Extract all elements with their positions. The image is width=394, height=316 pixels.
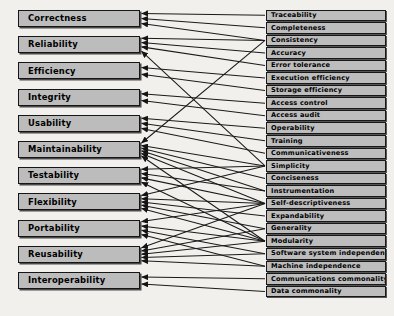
- criterion-label: Access audit: [267, 112, 320, 119]
- factor-box-maintainability[interactable]: Maintainability: [18, 141, 140, 158]
- criterion-box-machine-independence[interactable]: Machine independence: [266, 261, 386, 273]
- criterion-label: Communications commonality: [267, 276, 386, 283]
- criterion-box-accuracy[interactable]: Accuracy: [266, 47, 386, 59]
- criterion-box-expandability[interactable]: Expandability: [266, 210, 386, 222]
- criterion-label: Communicativeness: [267, 150, 349, 157]
- edge-error-tolerance-to-reliability: [142, 47, 266, 66]
- criterion-label: Access control: [267, 100, 328, 107]
- criterion-box-simplicity[interactable]: Simplicity: [266, 160, 386, 172]
- criterion-box-modularity[interactable]: Modularity: [266, 235, 386, 247]
- factor-box-flexibility[interactable]: Flexibility: [18, 193, 140, 210]
- criterion-box-conciseness[interactable]: Conciseness: [266, 173, 386, 185]
- factor-label: Reliability: [19, 40, 78, 48]
- factor-label: Interoperability: [19, 276, 105, 284]
- edge-conciseness-to-maintainability: [142, 148, 266, 178]
- factor-label: Portability: [19, 224, 80, 232]
- criterion-box-access-audit[interactable]: Access audit: [266, 110, 386, 122]
- factor-label: Efficiency: [19, 67, 76, 75]
- criterion-box-execution-efficiency[interactable]: Execution efficiency: [266, 72, 386, 84]
- edge-access-control-to-integrity: [142, 94, 266, 103]
- criterion-label: Storage efficiency: [267, 87, 342, 94]
- factor-box-efficiency[interactable]: Efficiency: [18, 62, 140, 79]
- edge-software-system-independence-to-portability: [142, 230, 266, 253]
- criterion-label: Execution efficiency: [267, 75, 350, 82]
- factor-label: Testability: [19, 171, 79, 179]
- factor-box-correctness[interactable]: Correctness: [18, 10, 140, 27]
- criterion-box-instrumentation[interactable]: Instrumentation: [266, 185, 386, 197]
- criterion-label: Self-descriptiveness: [267, 200, 350, 207]
- criterion-box-storage-efficiency[interactable]: Storage efficiency: [266, 85, 386, 97]
- criterion-label: Machine independence: [267, 263, 361, 270]
- criterion-box-communicativeness[interactable]: Communicativeness: [266, 148, 386, 160]
- edge-self-descriptiveness-to-testability: [142, 178, 266, 204]
- criterion-label: Completeness: [267, 25, 326, 32]
- criterion-box-access-control[interactable]: Access control: [266, 97, 386, 109]
- edge-access-audit-to-integrity: [142, 101, 266, 116]
- edge-self-descriptiveness-to-flexibility: [142, 199, 266, 204]
- factor-label: Maintainability: [19, 145, 102, 153]
- factor-box-testability[interactable]: Testability: [18, 167, 140, 184]
- factor-label: Integrity: [19, 93, 71, 101]
- criterion-label: Training: [267, 138, 303, 145]
- criterion-box-completeness[interactable]: Completeness: [266, 22, 386, 34]
- criterion-box-self-descriptiveness[interactable]: Self-descriptiveness: [266, 198, 386, 210]
- criterion-box-communications-commonality[interactable]: Communications commonality: [266, 273, 386, 285]
- edge-traceability-to-correctness: [142, 13, 266, 15]
- criterion-box-operability[interactable]: Operability: [266, 122, 386, 134]
- quality-factors-diagram: CorrectnessReliabilityEfficiencyIntegrit…: [0, 0, 394, 316]
- edge-machine-independence-to-reusability: [142, 261, 266, 267]
- criterion-box-consistency[interactable]: Consistency: [266, 35, 386, 47]
- criterion-box-generality[interactable]: Generality: [266, 223, 386, 235]
- criterion-box-data-commonality[interactable]: Data commonality: [266, 286, 386, 298]
- criterion-label: Consistency: [267, 37, 318, 44]
- criterion-label: Traceability: [267, 12, 317, 19]
- edge-simplicity-to-testability: [142, 166, 266, 169]
- criterion-label: Data commonality: [267, 288, 342, 295]
- edge-storage-efficiency-to-efficiency: [142, 74, 266, 90]
- edge-instrumentation-to-testability: [142, 174, 266, 191]
- edge-simplicity-to-flexibility: [142, 166, 266, 196]
- edge-self-descriptiveness-to-reusability: [142, 204, 266, 248]
- criterion-label: Software system independence: [267, 250, 386, 257]
- edge-simplicity-to-reliability: [142, 51, 266, 166]
- criterion-box-software-system-independence[interactable]: Software system independence: [266, 248, 386, 260]
- edge-generality-to-reusability: [142, 229, 266, 251]
- factor-box-integrity[interactable]: Integrity: [18, 89, 140, 106]
- factor-box-reliability[interactable]: Reliability: [18, 36, 140, 53]
- edge-self-descriptiveness-to-portability: [142, 204, 266, 222]
- factor-box-reusability[interactable]: Reusability: [18, 246, 140, 263]
- edge-operability-to-usability: [142, 118, 266, 128]
- factor-box-interoperability[interactable]: Interoperability: [18, 272, 140, 289]
- factor-label: Flexibility: [19, 198, 77, 206]
- criterion-box-training[interactable]: Training: [266, 135, 386, 147]
- criterion-label: Simplicity: [267, 163, 310, 170]
- factor-label: Reusability: [19, 250, 83, 258]
- edge-modularity-to-portability: [142, 226, 266, 241]
- criterion-label: Conciseness: [267, 175, 319, 182]
- edge-self-descriptiveness-to-maintainability: [142, 153, 266, 203]
- criterion-label: Operability: [267, 125, 315, 132]
- edge-instrumentation-to-maintainability: [142, 151, 266, 191]
- criterion-label: Instrumentation: [267, 188, 334, 195]
- edge-modularity-to-testability: [142, 182, 266, 241]
- edge-modularity-to-reusability: [142, 241, 266, 254]
- edge-completeness-to-correctness: [142, 19, 266, 28]
- edge-execution-efficiency-to-efficiency: [142, 68, 266, 79]
- edge-accuracy-to-reliability: [142, 43, 266, 53]
- edge-simplicity-to-maintainability: [142, 146, 266, 166]
- edge-modularity-to-flexibility: [142, 208, 266, 241]
- edge-data-commonality-to-interoperability: [142, 284, 266, 292]
- edge-consistency-to-correctness: [142, 24, 266, 41]
- factor-box-usability[interactable]: Usability: [18, 115, 140, 132]
- criterion-label: Modularity: [267, 238, 313, 245]
- edge-modularity-to-maintainability: [142, 156, 266, 241]
- edge-communicativeness-to-usability: [142, 128, 266, 153]
- criterion-box-error-tolerance[interactable]: Error tolerance: [266, 60, 386, 72]
- edge-expandability-to-flexibility: [142, 202, 266, 216]
- criterion-box-traceability[interactable]: Traceability: [266, 10, 386, 22]
- factor-label: Usability: [19, 119, 71, 127]
- criterion-label: Error tolerance: [267, 62, 330, 69]
- factor-box-portability[interactable]: Portability: [18, 220, 140, 237]
- edge-consistency-to-reliability: [142, 38, 266, 40]
- criterion-label: Expandability: [267, 213, 324, 220]
